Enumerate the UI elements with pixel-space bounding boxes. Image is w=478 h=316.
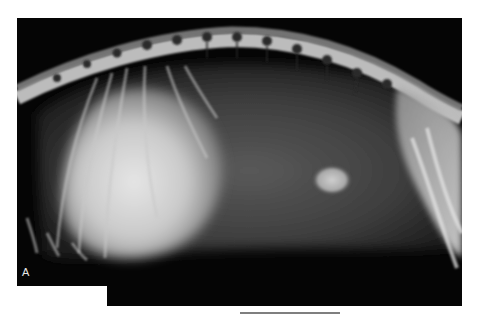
page-margin-notch [0, 286, 107, 316]
panel-label: A [22, 266, 29, 278]
bottom-rule [240, 312, 340, 314]
radiograph-image: A [17, 18, 462, 306]
radiograph-figure: A [0, 0, 478, 316]
radiograph-drawing [17, 18, 462, 306]
